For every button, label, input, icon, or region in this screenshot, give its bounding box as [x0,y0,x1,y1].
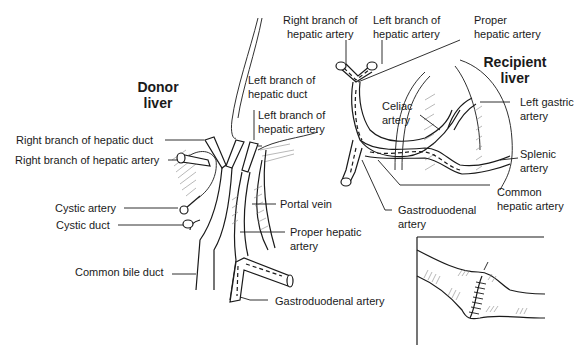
label-right-branch-hepatic-artery: Right branch of hepatic artery [15,153,159,167]
label-right-branch-hepatic-duct: Right branch of hepatic duct [16,133,153,147]
label-proper-hepatic-artery-line1: Proper hepatic [290,225,362,239]
label-recipient-lbha-line2: hepatic artery [373,27,440,41]
label-left-branch-hepatic-artery-line2: hepatic artery [258,122,325,136]
label-portal-vein: Portal vein [280,197,332,211]
donor-title-line2: liver [128,95,188,111]
label-cystic-artery: Cystic artery [55,201,116,215]
label-recipient-lbha-line1: Left branch of [373,13,440,27]
label-common-hepatic-artery-line1: Common [497,185,564,199]
label-left-branch-hepatic-duct-line2: hepatic duct [248,87,315,101]
label-left-gastric-artery-line2: artery [520,109,574,123]
label-left-branch-hepatic-duct-line1: Left branch of [248,73,315,87]
label-left-branch-hepatic-duct: Left branch of hepatic duct [248,73,315,101]
label-left-gastric-artery-line1: Left gastric [520,95,574,109]
label-left-branch-hepatic-artery-line1: Left branch of [258,108,325,122]
label-cystic-duct: Cystic duct [56,218,110,232]
label-splenic-artery: Splenic artery [520,147,556,175]
liver-transplant-diagram: Donor liver Right branch of hepatic duct… [0,0,585,356]
donor-liver-title: Donor liver [128,79,188,111]
label-left-gastric-artery: Left gastric artery [520,95,574,123]
label-splenic-artery-line2: artery [520,161,556,175]
donor-portal-vein [232,150,275,250]
label-recipient-gda-line1: Gastroduodenal [398,203,476,217]
label-common-hepatic-artery-line2: hepatic artery [497,199,564,213]
donor-title-line1: Donor [128,79,188,95]
label-splenic-artery-line1: Splenic [520,147,556,161]
label-gastroduodenal-artery-donor: Gastroduodenal artery [275,294,384,308]
label-recipient-gastroduodenal-artery: Gastroduodenal artery [398,203,476,231]
label-recipient-gda-line2: artery [398,217,476,231]
label-recipient-pha-line1: Proper [474,13,541,27]
label-recipient-pha-line2: hepatic artery [474,27,541,41]
anastomosis-inset[interactable] [417,237,545,345]
label-recipient-rbha-line1: Right branch of [283,13,358,27]
label-celiac-artery-line2: artery [382,113,413,127]
recipient-title-line1: Recipient [475,54,555,70]
label-celiac-artery-line1: Celiac [382,99,413,113]
recipient-liver-title: Recipient liver [475,54,555,86]
label-left-branch-hepatic-artery: Left branch of hepatic artery [258,108,325,136]
label-common-hepatic-artery: Common hepatic artery [497,185,564,213]
recipient-title-line2: liver [475,70,555,86]
label-proper-hepatic-artery-line2: artery [290,239,362,253]
label-proper-hepatic-artery: Proper hepatic artery [290,225,362,253]
label-common-bile-duct: Common bile duct [75,265,164,279]
label-recipient-rbha-line2: hepatic artery [283,27,358,41]
label-recipient-proper-hepatic-artery: Proper hepatic artery [474,13,541,41]
label-recipient-right-branch-hepatic-artery: Right branch of hepatic artery [283,13,358,41]
label-recipient-left-branch-hepatic-artery: Left branch of hepatic artery [373,13,440,41]
label-celiac-artery: Celiac artery [382,99,413,127]
